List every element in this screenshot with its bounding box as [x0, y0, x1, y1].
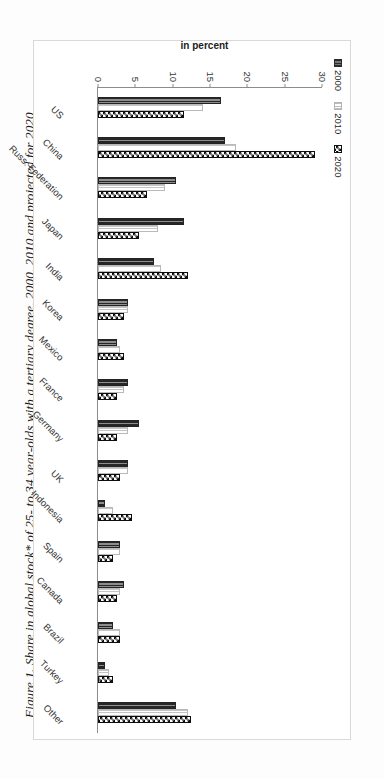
- bar-2010[interactable]: [98, 668, 109, 675]
- bar-2020[interactable]: [98, 554, 113, 561]
- bar-2020[interactable]: [98, 514, 132, 521]
- bar-2010[interactable]: [98, 386, 124, 393]
- bar-2020[interactable]: [98, 231, 139, 238]
- bar-2020[interactable]: [98, 191, 147, 198]
- bar-group: [98, 87, 322, 127]
- series-2010-swatch: [335, 102, 343, 110]
- bar-2010[interactable]: [98, 144, 236, 151]
- bar-group: [98, 329, 322, 369]
- bar-2000[interactable]: [98, 177, 176, 184]
- bar-2020[interactable]: [98, 595, 117, 602]
- bar-2010[interactable]: [98, 628, 120, 635]
- bar-2010[interactable]: [98, 345, 120, 352]
- bar-2000[interactable]: [98, 96, 221, 103]
- bar-group: [98, 127, 322, 167]
- bar-2000[interactable]: [98, 460, 128, 467]
- legend-item[interactable]: 2010: [333, 102, 344, 134]
- bar-2010[interactable]: [98, 588, 120, 595]
- category-label: Other: [0, 655, 66, 726]
- bar-2000[interactable]: [98, 338, 117, 345]
- bar-group: [98, 692, 322, 732]
- bar-group: [98, 288, 322, 328]
- bar-2020[interactable]: [98, 312, 124, 319]
- y-axis-tick-label: 30: [317, 71, 328, 82]
- bar-2020[interactable]: [98, 110, 184, 117]
- bar-2010[interactable]: [98, 305, 128, 312]
- bar-2000[interactable]: [98, 540, 120, 547]
- legend-item-label: 2010: [333, 113, 344, 134]
- bar-group: [98, 652, 322, 692]
- chart-plot-frame: 200020102020 in percent 051015202530USCh…: [33, 40, 351, 740]
- legend-item-label: 2000: [333, 70, 344, 91]
- bar-group: [98, 450, 322, 490]
- bar-group: [98, 571, 322, 611]
- series-2020-swatch: [335, 145, 343, 153]
- legend-item-label: 2020: [333, 156, 344, 177]
- bar-2020[interactable]: [98, 635, 120, 642]
- figure-page: Figure 1. Share in global stock* of 25- …: [0, 0, 384, 779]
- y-axis-tick-label: 25: [279, 71, 290, 82]
- bar-2000[interactable]: [98, 621, 113, 628]
- bar-group: [98, 167, 322, 207]
- bar-2020[interactable]: [98, 716, 191, 723]
- plot-area: 051015202530USChinaRuss. FederationJapan…: [98, 87, 322, 733]
- bar-2010[interactable]: [98, 547, 120, 554]
- chart-legend: 200020102020: [333, 59, 344, 177]
- bar-2000[interactable]: [98, 702, 176, 709]
- bar-2010[interactable]: [98, 224, 158, 231]
- bar-2020[interactable]: [98, 474, 120, 481]
- bar-group: [98, 611, 322, 651]
- series-2000-swatch: [335, 59, 343, 67]
- y-axis-tick-label: 5: [130, 76, 141, 81]
- bar-2000[interactable]: [98, 379, 128, 386]
- bar-2000[interactable]: [98, 500, 105, 507]
- bar-2010[interactable]: [98, 709, 188, 716]
- bar-group: [98, 208, 322, 248]
- y-axis-tick-label: 15: [205, 71, 216, 82]
- bar-group: [98, 369, 322, 409]
- bar-2010[interactable]: [98, 426, 128, 433]
- legend-item[interactable]: 2000: [333, 59, 344, 91]
- bar-2000[interactable]: [98, 217, 184, 224]
- bar-2020[interactable]: [98, 352, 124, 359]
- bar-group: [98, 248, 322, 288]
- bar-2020[interactable]: [98, 272, 188, 279]
- bar-2000[interactable]: [98, 258, 154, 265]
- bar-2020[interactable]: [98, 151, 315, 158]
- bar-2020[interactable]: [98, 675, 113, 682]
- bar-2000[interactable]: [98, 137, 225, 144]
- bar-2000[interactable]: [98, 661, 105, 668]
- bar-2010[interactable]: [98, 507, 113, 514]
- legend-item[interactable]: 2020: [333, 145, 344, 177]
- bar-2010[interactable]: [98, 265, 161, 272]
- bar-2020[interactable]: [98, 433, 117, 440]
- bar-2010[interactable]: [98, 467, 128, 474]
- bar-group: [98, 531, 322, 571]
- bar-chart: 200020102020 in percent 051015202530USCh…: [33, 40, 351, 740]
- bar-group: [98, 410, 322, 450]
- bar-2010[interactable]: [98, 184, 165, 191]
- bar-2020[interactable]: [98, 393, 117, 400]
- y-axis-label: in percent: [165, 39, 245, 50]
- bar-2000[interactable]: [98, 419, 139, 426]
- bar-group: [98, 490, 322, 530]
- bar-2000[interactable]: [98, 298, 128, 305]
- bar-2010[interactable]: [98, 103, 203, 110]
- y-axis-tick-label: 0: [93, 76, 104, 81]
- y-axis-tick-label: 10: [167, 71, 178, 82]
- y-axis-tick-label: 20: [242, 71, 253, 82]
- bar-2000[interactable]: [98, 581, 124, 588]
